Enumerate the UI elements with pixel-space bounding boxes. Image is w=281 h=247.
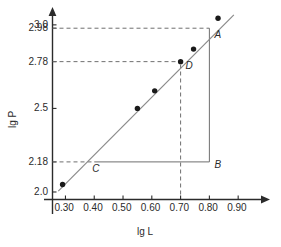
x-tick-label-0.80: 0.80 — [198, 203, 217, 213]
point-label-D: D — [186, 61, 193, 71]
data-point-5 — [215, 15, 220, 20]
data-point-4 — [191, 46, 196, 51]
data-point-1 — [135, 106, 140, 111]
point-label-A: A — [214, 30, 221, 40]
data-point-3 — [178, 59, 183, 64]
x-tick-label-0.30: 0.30 — [54, 203, 73, 213]
x-tick-label-0.60: 0.60 — [141, 203, 160, 213]
data-point-2 — [152, 88, 157, 93]
point-label-B: B — [214, 160, 221, 170]
x-axis-arrow-icon — [261, 196, 270, 204]
y-tick-label-2.98: 2.98 — [8, 23, 48, 33]
chart-figure: 3.0 2.98 2.78 2.5 2.18 2.0 0.30 0.40 0.5… — [0, 0, 281, 247]
y-axis-arrow-icon — [49, 7, 57, 16]
point-label-C: C — [92, 164, 99, 174]
fit-line — [58, 15, 234, 191]
x-tick-label-0.90: 0.90 — [227, 203, 246, 213]
x-tick-label-0.70: 0.70 — [170, 203, 189, 213]
y-tick-label-2.78: 2.78 — [8, 57, 48, 67]
data-point-0 — [60, 182, 65, 187]
x-tick-label-0.40: 0.40 — [83, 203, 102, 213]
y-axis-title: lg P — [8, 111, 18, 128]
y-tick-label-2.0: 2.0 — [8, 187, 48, 197]
y-tick-label-2.18: 2.18 — [8, 157, 48, 167]
x-axis-title: lg L — [137, 227, 153, 237]
x-tick-label-0.50: 0.50 — [112, 203, 131, 213]
axes-group — [44, 7, 270, 214]
guide-lines-group — [53, 28, 210, 194]
